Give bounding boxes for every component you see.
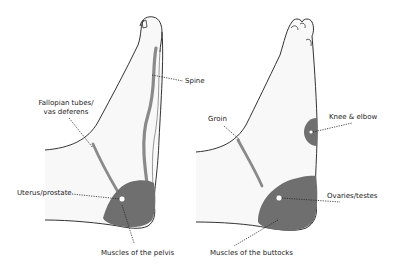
label-spine: Spine (185, 77, 205, 86)
label-muscles-pelvis: Muscles of the pelvis (101, 249, 174, 258)
label-fallopian-line1: Fallopian tubes/ (36, 99, 96, 108)
label-muscles-buttocks: Muscles of the buttocks (210, 249, 293, 258)
foot-illustrations (0, 0, 396, 272)
label-uterus-prostate: Uterus/prostate (17, 189, 72, 198)
left-foot (45, 17, 183, 243)
label-groin: Groin (208, 115, 227, 124)
reflexology-diagram: Spine Fallopian tubes/ vas deferens Uter… (0, 0, 396, 272)
label-fallopian-tubes: Fallopian tubes/ vas deferens (36, 99, 96, 117)
right-foot (196, 19, 352, 246)
label-ovaries-testes: Ovaries/testes (327, 192, 377, 201)
label-knee-elbow: Knee & elbow (329, 113, 377, 122)
label-fallopian-line2: vas deferens (36, 108, 96, 117)
